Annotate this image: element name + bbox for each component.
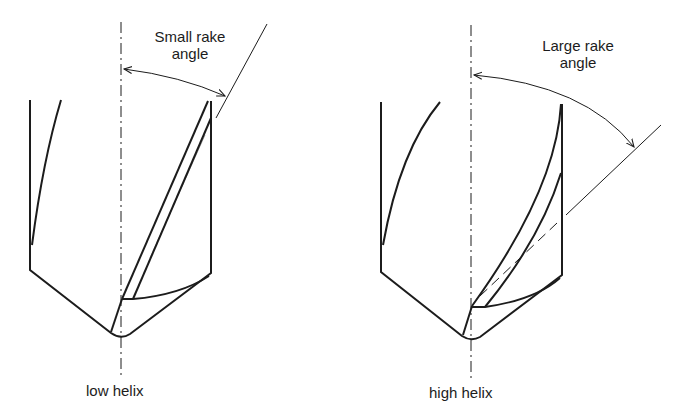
margin-curve: [383, 102, 440, 245]
chisel-edge: [111, 299, 122, 332]
flute-edge-outer: [472, 104, 561, 306]
annotation-line1: Large rake: [528, 37, 628, 54]
annotation-line2: angle: [528, 54, 628, 71]
rake-angle-arrow: [474, 75, 634, 147]
annotation-line2: angle: [140, 45, 240, 62]
margin-curve: [32, 100, 61, 245]
flute-edge-outer: [122, 101, 208, 299]
high-helix-drill: [381, 25, 661, 378]
flute-faint: [150, 135, 205, 258]
large-rake-angle-label: Large rake angle: [528, 37, 628, 71]
drill-helix-diagram: Small rake angle Large rake angle low he…: [0, 0, 685, 417]
lip-curve: [133, 276, 209, 299]
low-helix-caption: low helix: [86, 382, 144, 399]
flute-edge-inner: [485, 173, 561, 307]
rake-angle-arrow: [124, 69, 225, 96]
annotation-line1: Small rake: [140, 28, 240, 45]
low-helix-drill: [30, 22, 267, 378]
small-rake-angle-label: Small rake angle: [140, 28, 240, 62]
rake-line: [566, 125, 661, 215]
high-helix-caption: high helix: [429, 384, 492, 401]
